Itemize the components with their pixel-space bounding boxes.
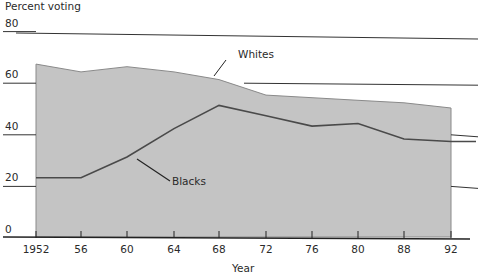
x-tick-label: 92 bbox=[444, 243, 457, 255]
x-tick-label: 60 bbox=[120, 243, 133, 255]
whites-pointer bbox=[214, 60, 226, 76]
whites-area bbox=[36, 64, 451, 237]
x-axis-label: Year bbox=[231, 262, 255, 274]
x-tick-label: 64 bbox=[167, 243, 181, 255]
y-tick-label: 40 bbox=[5, 120, 18, 132]
y-tick-label: 0 bbox=[5, 223, 12, 235]
x-tick-label: 76 bbox=[305, 243, 319, 255]
blacks-annotation: Blacks bbox=[172, 175, 206, 187]
y-tick-label: 20 bbox=[5, 171, 18, 183]
x-tick-label: 56 bbox=[74, 243, 88, 255]
x-tick-label: 72 bbox=[259, 243, 272, 255]
x-tick-label: 1952 bbox=[23, 243, 50, 255]
voting-chart: 1952566064687276808892 020406080 Percent… bbox=[0, 0, 492, 279]
x-tick-label: 68 bbox=[212, 243, 225, 255]
y-tick-labels: 020406080 bbox=[5, 17, 18, 235]
y-axis-label: Percent voting bbox=[5, 0, 81, 12]
y-tick-label: 60 bbox=[5, 68, 18, 80]
whites-annotation: Whites bbox=[238, 48, 274, 60]
x-tick-label: 80 bbox=[351, 243, 364, 255]
x-tick-label: 88 bbox=[397, 243, 410, 255]
y-tick-label: 80 bbox=[5, 17, 18, 29]
